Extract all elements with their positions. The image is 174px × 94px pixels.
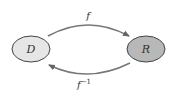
arrow-f	[48, 25, 129, 36]
arrow-f-inverse	[49, 63, 130, 74]
node-d-label: D	[26, 43, 36, 56]
function-inverse-diagram: D R f f−1	[0, 0, 174, 94]
node-r-label: R	[141, 43, 150, 56]
arrow-f-label: f	[85, 10, 92, 21]
arrow-f-inverse-label: f−1	[76, 78, 91, 90]
node-d: D	[12, 36, 50, 62]
node-r: R	[127, 36, 165, 62]
